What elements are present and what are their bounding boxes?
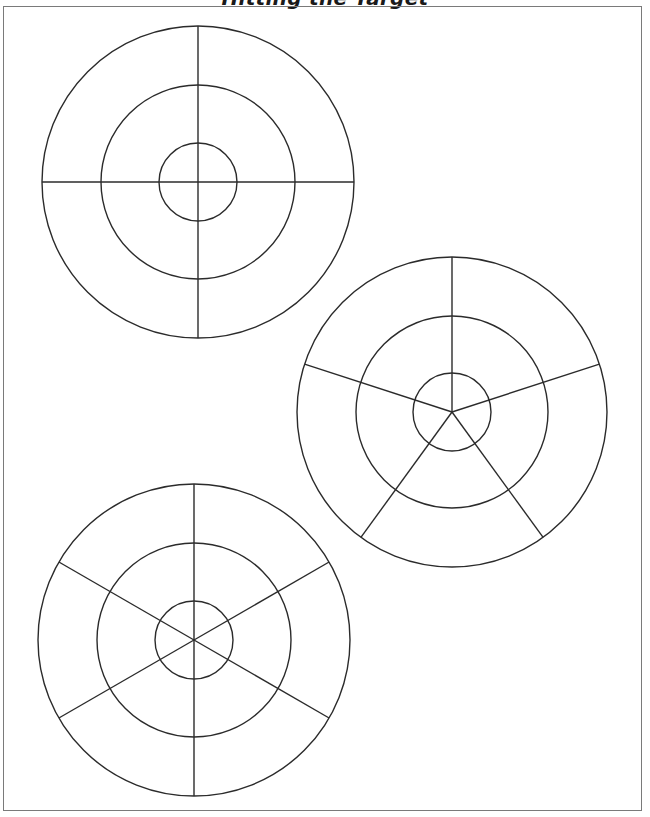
spoke-line [194, 562, 329, 640]
targets-canvas [0, 0, 650, 817]
target-4-sections [42, 26, 354, 338]
target-6-sections [38, 484, 350, 796]
target-5-sections [297, 257, 607, 567]
spoke-line [305, 364, 452, 412]
spoke-line [452, 364, 599, 412]
spoke-line [59, 640, 194, 718]
spoke-line [194, 640, 329, 718]
spoke-line [361, 412, 452, 537]
spoke-line [59, 562, 194, 640]
spoke-line [452, 412, 543, 537]
